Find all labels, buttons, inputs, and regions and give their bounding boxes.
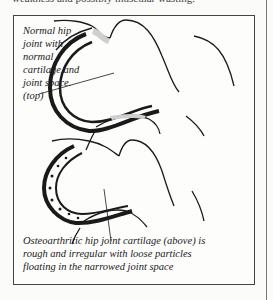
caption-osteoarthritic-hip: Osteoarthritic hip joint cartilage (abov…: [23, 234, 223, 273]
caption-line: normal: [23, 50, 93, 63]
column-rule: [266, 0, 267, 300]
normal-cartilage-shading: [92, 28, 146, 120]
caption-line: floating in the narrowed joint space: [23, 260, 223, 273]
caption-line: cartilage and: [23, 63, 93, 76]
caption-line: joint space.: [23, 76, 93, 89]
caption-line: rough and irregular with loose particles: [23, 247, 223, 260]
body-text-clipped: weakness and possibly muscular wasting.: [12, 0, 195, 4]
caption-line: joint with: [23, 37, 93, 50]
figure-box: Normal hip joint with normal cartilage a…: [13, 15, 255, 285]
caption-line: Normal hip: [23, 24, 93, 37]
caption-normal-hip: Normal hip joint with normal cartilage a…: [23, 24, 93, 102]
caption-line: (top): [23, 89, 93, 102]
caption-line: Osteoarthritic hip joint cartilage (abov…: [23, 234, 223, 247]
osteoarthritic-hip-drawing: [44, 139, 174, 244]
femur-outline: [186, 36, 234, 221]
